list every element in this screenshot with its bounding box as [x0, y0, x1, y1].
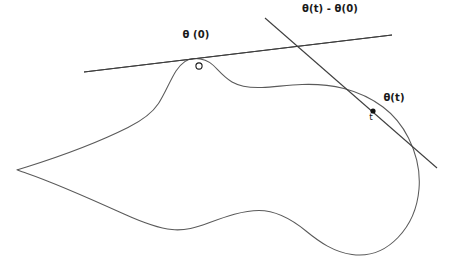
- figure-canvas: [0, 0, 458, 257]
- tangent-line-at-theta-zero-geom: [84, 35, 392, 72]
- label-theta-zero: θ (0): [183, 30, 210, 40]
- label-theta-difference: θ(t) - θ(0): [302, 4, 358, 14]
- closed-curve-path: [17, 58, 419, 255]
- label-theta-t: θ(t): [383, 93, 404, 103]
- secant-line-theta-difference: [265, 18, 437, 168]
- label-t-marker: t: [369, 113, 373, 122]
- figure-container: θ (0) θ(t) - θ(0) θ(t) t: [0, 0, 458, 257]
- theta-zero-point-marker: [196, 63, 202, 69]
